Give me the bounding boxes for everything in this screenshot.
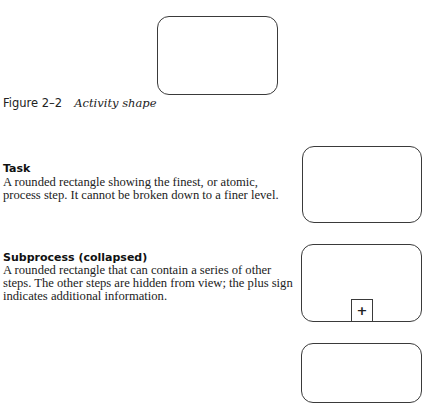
task-description: A rounded rectangle showing the finest, …	[3, 176, 295, 202]
activity-shape	[157, 16, 278, 95]
figure-title: Activity shape	[74, 96, 156, 110]
task-heading: Task	[3, 162, 30, 175]
task-shape	[302, 146, 422, 223]
figure-number: Figure 2–2	[3, 96, 62, 110]
figure-caption: Figure 2–2Activity shape	[3, 96, 156, 111]
subprocess-description: A rounded rectangle that can contain a s…	[3, 264, 295, 304]
plus-marker-icon: +	[351, 299, 373, 321]
next-activity-shape	[301, 343, 422, 403]
